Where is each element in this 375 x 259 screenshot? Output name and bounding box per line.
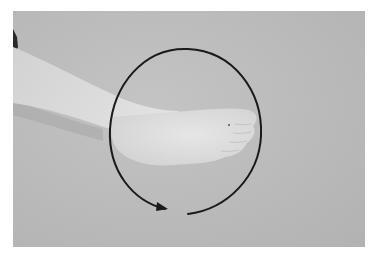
foot — [111, 108, 257, 165]
arrowhead-icon — [156, 202, 168, 211]
ankle-rotation-photo — [13, 11, 365, 247]
photo-illustration — [13, 11, 365, 247]
